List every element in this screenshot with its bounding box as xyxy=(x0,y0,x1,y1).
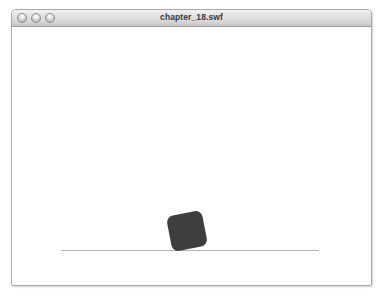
flash-stage[interactable] xyxy=(12,27,371,286)
window-title: chapter_18.swf xyxy=(12,12,371,22)
application-window[interactable]: chapter_18.swf xyxy=(11,9,372,286)
ground-line xyxy=(61,250,319,251)
window-titlebar[interactable]: chapter_18.swf xyxy=(12,10,371,27)
physics-box-shape xyxy=(166,210,208,252)
screenshot-root: chapter_18.swf xyxy=(0,0,385,300)
